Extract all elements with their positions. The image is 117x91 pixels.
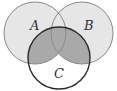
venn-diagram: A B C	[0, 0, 117, 91]
label-a: A	[29, 18, 39, 33]
label-c: C	[54, 66, 64, 81]
label-b: B	[83, 18, 94, 33]
